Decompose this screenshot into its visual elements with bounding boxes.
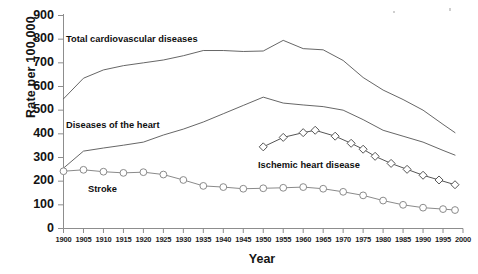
series-marker-diamond [299, 129, 307, 137]
series-marker-diamond [331, 132, 339, 140]
series-marker-circle [320, 185, 327, 192]
series-marker-diamond [435, 176, 443, 184]
series-marker-circle [200, 183, 207, 190]
series-marker-circle [60, 168, 67, 175]
series-marker-circle [100, 168, 107, 175]
series-marker-circle [300, 184, 307, 191]
x-axis-ticks [64, 229, 464, 234]
y-tick-label: 100 [14, 197, 54, 211]
x-axis-title: Year [232, 252, 292, 266]
series-marker-circle [380, 197, 387, 204]
series-marker-diamond [419, 171, 427, 179]
y-axis-title: Rate per 100,000 [21, 0, 43, 157]
x-tick-label: 2000 [446, 235, 478, 244]
series-marker-circle [340, 188, 347, 195]
series-marker-diamond [451, 181, 459, 189]
series-marker-circle [160, 171, 167, 178]
series-marker-circle [440, 206, 447, 213]
scan-artifact-speck [393, 11, 395, 13]
series-marker-diamond [259, 143, 267, 151]
series-annotation-diseases-of-the-heart: Diseases of the heart [66, 120, 160, 130]
series-marker-circle [140, 169, 147, 176]
series-line-1 [64, 97, 456, 168]
series-marker-circle [400, 201, 407, 208]
series-marker-circle [280, 184, 287, 191]
scan-artifact-speck [449, 8, 451, 11]
series-marker-diamond [279, 133, 287, 141]
series-marker-circle [260, 185, 267, 192]
series-annotation-total-cardiovascular-diseases: Total cardiovascular diseases [66, 34, 198, 44]
y-tick-label: 200 [14, 173, 54, 187]
series-marker-circle [180, 177, 187, 184]
series-annotation-ischemic-heart-disease: Ischemic heart disease [258, 160, 360, 170]
series-line-0 [64, 40, 456, 132]
series-annotation-stroke: Stroke [88, 184, 117, 194]
series-marker-circle [420, 204, 427, 211]
series-marker-circle [220, 184, 227, 191]
series-marker-diamond [371, 152, 379, 160]
series-marker-circle [240, 185, 247, 192]
series-marker-diamond [359, 145, 367, 153]
series-marker-diamond [347, 139, 355, 147]
series-marker-circle [80, 166, 87, 173]
y-axis-title-text: Rate per 100,000 [24, 16, 38, 118]
y-tick-label: 0 [14, 221, 54, 235]
series-marker-diamond [403, 165, 411, 173]
y-axis-ticks [58, 16, 64, 229]
series-marker-diamond [387, 159, 395, 167]
series-marker-circle [360, 192, 367, 199]
series-marker-circle [120, 169, 127, 176]
chart-container: 9008007006005004003002001000 19001905191… [0, 0, 478, 274]
series-marker-diamond [311, 126, 319, 134]
series-marker-circle [452, 207, 459, 214]
